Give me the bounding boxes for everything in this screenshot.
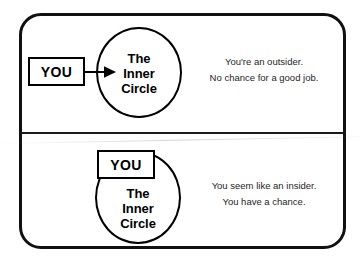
caption-outsider: You're an outsider. No chance for a good… [188, 54, 340, 86]
inner-circle-label-insider: The Inner Circle [97, 186, 179, 231]
caption-line: You have a chance. [188, 194, 340, 210]
circle-label-line: The [127, 186, 150, 201]
circle-label-line: Circle [120, 216, 156, 231]
diagram-canvas: The Inner Circle YOU You're an outsider.… [0, 0, 362, 268]
caption-insider: You seem like an insider. You have a cha… [188, 178, 340, 210]
caption-line: You seem like an insider. [188, 178, 340, 194]
circle-label-line: Inner [122, 201, 153, 216]
outer-frame [19, 13, 346, 249]
circle-label-line: Circle [121, 80, 157, 95]
caption-line: No chance for a good job. [188, 70, 340, 86]
circle-label-line: Inner [123, 65, 154, 80]
you-box-outsider: YOU [28, 57, 85, 86]
circle-label-line: The [128, 50, 151, 65]
arrow-right-icon [84, 63, 116, 81]
panel-divider [21, 132, 345, 134]
you-box-label: YOU [110, 157, 142, 173]
caption-line: You're an outsider. [188, 54, 340, 70]
you-box-label: YOU [41, 64, 73, 80]
you-box-insider: YOU [97, 150, 155, 179]
